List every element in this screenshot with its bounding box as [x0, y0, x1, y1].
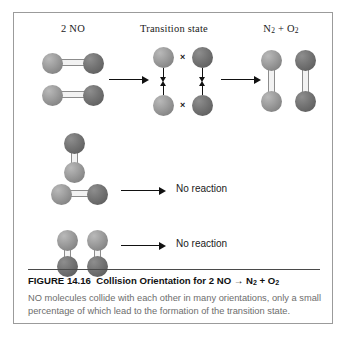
bond-break-mark-top: ×	[180, 53, 185, 62]
bond-break-mark-bottom: ×	[180, 101, 185, 110]
atom-nitrogen-ts-topleft	[153, 47, 174, 68]
caption-figure-number: FIGURE 14.16	[28, 275, 91, 286]
products-plus-o: + O	[275, 23, 295, 34]
reaction-arrow-1	[109, 75, 149, 84]
column-label-products: N2 + O2	[236, 23, 326, 35]
caption-title-text: Collision Orientation for 2 NO	[96, 275, 231, 286]
caption-product-plus-o: + O	[257, 275, 275, 286]
reaction-diagram: 2 NO Transition state N2 + O2	[14, 13, 334, 268]
atom-nitrogen-row3-right-top	[87, 230, 108, 251]
motion-arrow-ts-right-down	[198, 68, 207, 82]
atom-oxygen-row2-vertical-top	[64, 133, 85, 154]
arrow-shaft	[121, 245, 159, 246]
reaction-arrow-2	[221, 75, 261, 84]
arrow-head	[199, 81, 205, 86]
products-n-symbol: N	[263, 23, 271, 34]
atom-oxygen-ts-topright	[192, 47, 213, 68]
atom-oxygen-row2-horizontal-right	[87, 184, 108, 205]
figure-frame: 2 NO Transition state N2 + O2	[13, 12, 333, 324]
arrow-shaft	[202, 85, 203, 95]
arrow-shaft	[221, 79, 254, 80]
atom-nitrogen-ts-bottomleft	[153, 95, 174, 116]
motion-arrow-ts-right-up	[198, 81, 207, 95]
arrow-shaft	[121, 190, 159, 191]
atom-nitrogen-row3-left-top	[57, 230, 78, 251]
no-reaction-label-row3: No reaction	[176, 238, 227, 249]
caption-product-o-subscript: 2	[275, 279, 279, 286]
caption-body: NO molecules collide with each other in …	[28, 292, 324, 317]
atom-oxygen-reactant-2	[83, 85, 104, 106]
arrow-shaft	[163, 85, 164, 95]
atom-nitrogen-reactant-2	[42, 85, 63, 106]
arrow-shaft	[109, 79, 142, 80]
atom-oxygen-ts-bottomright	[192, 95, 213, 116]
caption-product-n: N	[246, 275, 253, 286]
figure-container: 2 NO Transition state N2 + O2	[0, 0, 348, 338]
arrow-head	[254, 76, 261, 84]
atom-nitrogen-reactant-1	[42, 53, 63, 74]
no-reaction-label-row2: No reaction	[176, 183, 227, 194]
arrow-head	[159, 242, 166, 250]
motion-arrow-ts-left-up	[159, 81, 168, 95]
figure-caption: FIGURE 14.16 Collision Orientation for 2…	[28, 274, 324, 317]
products-o-subscript: 2	[295, 26, 299, 35]
atom-nitrogen-row2-horizontal-left	[51, 184, 72, 205]
arrow-head	[160, 81, 166, 86]
atom-nitrogen-row2-vertical-bottom	[64, 162, 85, 183]
atom-nitrogen-product-top	[261, 50, 282, 71]
atom-oxygen-product-bottom	[295, 91, 316, 112]
caption-title: FIGURE 14.16 Collision Orientation for 2…	[28, 274, 324, 289]
atom-nitrogen-product-bottom	[261, 91, 282, 112]
arrow-head	[142, 76, 149, 84]
atom-oxygen-reactant-1	[83, 53, 104, 74]
motion-arrow-ts-left-down	[159, 68, 168, 82]
reaction-arrow-row2	[121, 186, 167, 195]
arrow-head	[159, 187, 166, 195]
caption-arrow-icon: →	[234, 275, 244, 286]
caption-divider	[28, 269, 320, 270]
column-label-transition-state: Transition state	[120, 23, 228, 34]
column-label-reactants: 2 NO	[28, 23, 118, 34]
atom-oxygen-product-top	[295, 50, 316, 71]
reaction-arrow-row3	[121, 241, 167, 250]
